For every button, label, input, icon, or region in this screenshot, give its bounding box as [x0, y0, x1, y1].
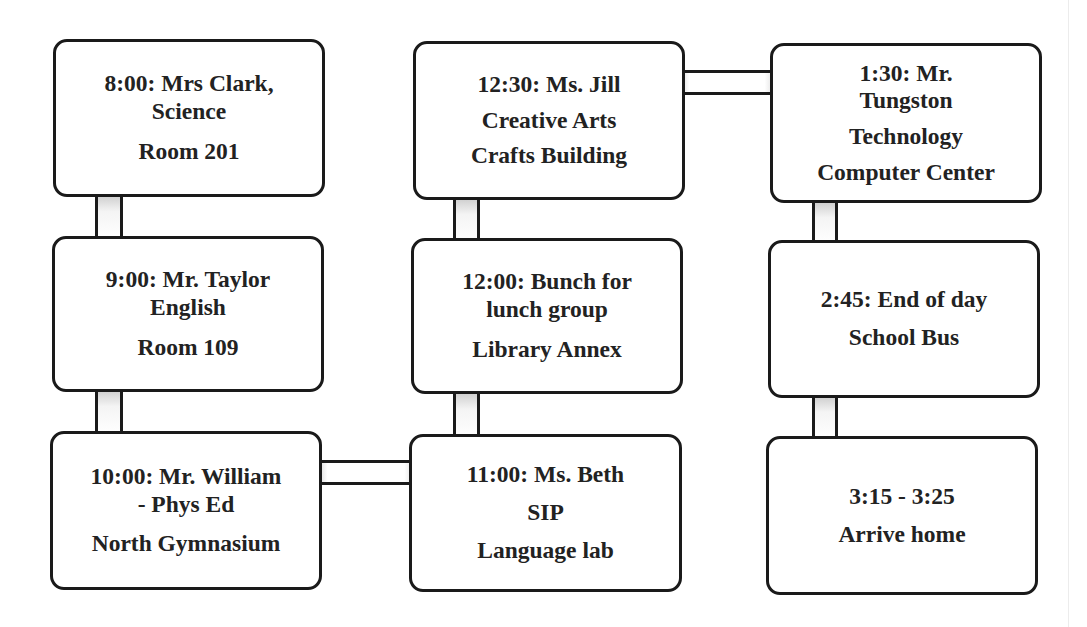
schedule-box-0800-science: 8:00: Mrs Clark, Science Room 201 [53, 39, 325, 197]
connector-1230-to-130 [680, 70, 774, 95]
box-location: Room 201 [138, 138, 239, 166]
box-teacher-cont: Tungston [859, 87, 952, 115]
box-subject: English [150, 294, 226, 322]
schedule-box-0900-english: 9:00: Mr. Taylor English Room 109 [52, 236, 324, 392]
box-time-range: 3:15 - 3:25 [849, 483, 955, 511]
schedule-box-1230-creative-arts: 12:30: Ms. Jill Creative Arts Crafts Bui… [413, 41, 685, 200]
box-subject: Creative Arts [482, 107, 617, 135]
connector-10-to-11 [318, 460, 414, 485]
connector-8-to-9 [95, 193, 123, 239]
connector-245-to-315 [812, 394, 838, 439]
connector-130-to-245 [812, 200, 838, 244]
box-location: Library Annex [472, 336, 622, 364]
box-subject: Technology [849, 123, 963, 151]
box-location: Computer Center [817, 159, 995, 187]
schedule-box-0315-arrive-home: 3:15 - 3:25 Arrive home [766, 436, 1038, 595]
box-activity: Arrive home [838, 521, 965, 549]
connector-9-to-10 [95, 388, 123, 434]
box-subject: - Phys Ed [138, 491, 235, 519]
box-time-teacher: 8:00: Mrs Clark, [104, 70, 273, 98]
connector-11-to-1200 [453, 390, 480, 438]
box-time-teacher: 1:30: Mr. [859, 60, 952, 88]
box-time-teacher: 11:00: Ms. Beth [467, 461, 624, 489]
box-time-activity: 12:00: Bunch for [462, 268, 632, 296]
connector-1200-to-1230 [453, 196, 480, 242]
schedule-box-1000-phys-ed: 10:00: Mr. William - Phys Ed North Gymna… [50, 431, 322, 590]
schedule-diagram: 8:00: Mrs Clark, Science Room 201 9:00: … [0, 0, 1087, 627]
box-time-activity: 2:45: End of day [821, 286, 988, 314]
box-subject: SIP [527, 499, 564, 527]
schedule-box-1200-lunch: 12:00: Bunch for lunch group Library Ann… [411, 238, 683, 394]
box-location: Crafts Building [471, 142, 627, 170]
schedule-box-0245-end-of-day: 2:45: End of day School Bus [768, 240, 1040, 398]
schedule-box-0130-technology: 1:30: Mr. Tungston Technology Computer C… [770, 43, 1042, 203]
box-time-teacher: 9:00: Mr. Taylor [106, 266, 270, 294]
page-edge-divider [1068, 0, 1069, 627]
box-location: Language lab [477, 537, 613, 565]
box-activity-cont: lunch group [486, 296, 608, 324]
box-time-teacher: 10:00: Mr. William [91, 463, 282, 491]
schedule-box-1100-sip: 11:00: Ms. Beth SIP Language lab [409, 434, 682, 592]
box-subject: Science [152, 98, 226, 126]
box-location: North Gymnasium [92, 530, 281, 558]
box-location: Room 109 [137, 334, 238, 362]
box-transport: School Bus [849, 324, 959, 352]
box-time-teacher: 12:30: Ms. Jill [478, 71, 621, 99]
